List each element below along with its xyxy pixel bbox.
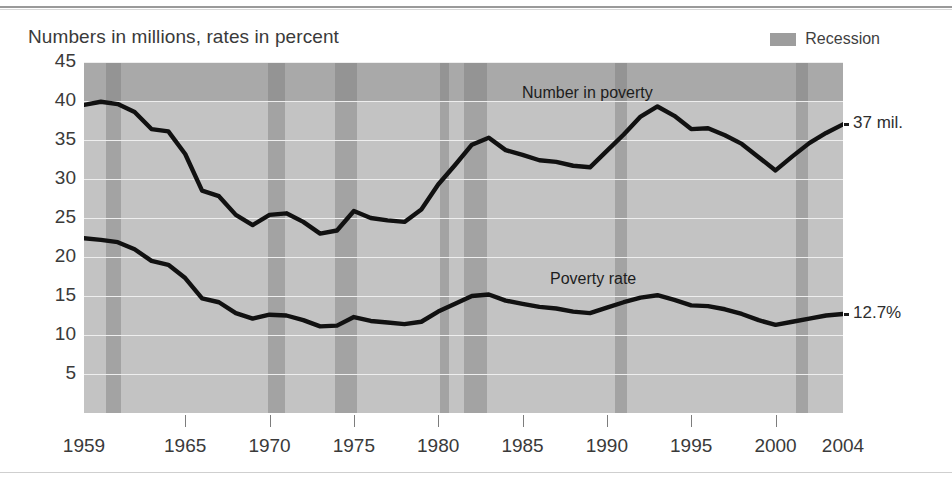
- line-poverty-rate: [84, 238, 843, 326]
- x-axis-tickmark: [185, 415, 186, 427]
- end-label-number-in-poverty: 37 mil.: [853, 113, 903, 133]
- x-axis-tick-label: 1980: [417, 435, 459, 457]
- x-axis-tick-label: 1970: [248, 435, 290, 457]
- x-axis-tick-label: 1985: [501, 435, 543, 457]
- x-axis-tickmark: [691, 415, 692, 427]
- chart-subtitle: Numbers in millions, rates in percent: [28, 26, 339, 48]
- y-axis-tick-label: 25: [30, 206, 76, 228]
- x-axis-tickmark: [607, 415, 608, 427]
- y-axis-tick-label: 40: [30, 89, 76, 111]
- series-lines: [84, 62, 843, 413]
- x-axis-tick-label: 2000: [754, 435, 796, 457]
- legend-label-recession: Recession: [805, 30, 880, 48]
- y-axis-tick-label: 10: [30, 323, 76, 345]
- x-axis-tick-label: 1959: [63, 435, 105, 457]
- y-axis-tick-label: 30: [30, 167, 76, 189]
- x-axis-tick-label: 2004: [822, 435, 864, 457]
- end-marker-rate: [844, 313, 849, 316]
- y-axis-tick-label: 20: [30, 245, 76, 267]
- x-axis-tickmark: [438, 415, 439, 427]
- line-number-in-poverty: [84, 102, 843, 234]
- y-axis-tick-label: 5: [30, 362, 76, 384]
- x-axis-tick-label: 1990: [586, 435, 628, 457]
- y-axis-tick-label: 15: [30, 284, 76, 306]
- end-label-poverty-rate: 12.7%: [853, 303, 901, 323]
- series-label-number-in-poverty: Number in poverty: [522, 84, 653, 102]
- x-axis-tickmark: [270, 415, 271, 427]
- plot-area: Number in poverty Poverty rate: [84, 62, 843, 413]
- y-axis-tick-label: 45: [30, 50, 76, 72]
- top-divider-shadow: [0, 9, 952, 10]
- x-axis-tickmark: [523, 415, 524, 427]
- x-axis-tickmark: [776, 415, 777, 427]
- top-divider: [0, 6, 952, 8]
- x-axis-tick-label: 1995: [670, 435, 712, 457]
- x-axis-tickmark: [354, 415, 355, 427]
- poverty-chart-figure: Numbers in millions, rates in percent Re…: [0, 0, 952, 480]
- legend: Recession: [770, 30, 880, 48]
- end-marker-number: [844, 123, 849, 126]
- bottom-divider: [0, 472, 952, 473]
- recession-swatch-icon: [770, 33, 796, 46]
- series-label-poverty-rate: Poverty rate: [550, 270, 636, 288]
- x-axis-tick-label: 1965: [164, 435, 206, 457]
- x-axis-tick-label: 1975: [333, 435, 375, 457]
- y-axis-tick-label: 35: [30, 128, 76, 150]
